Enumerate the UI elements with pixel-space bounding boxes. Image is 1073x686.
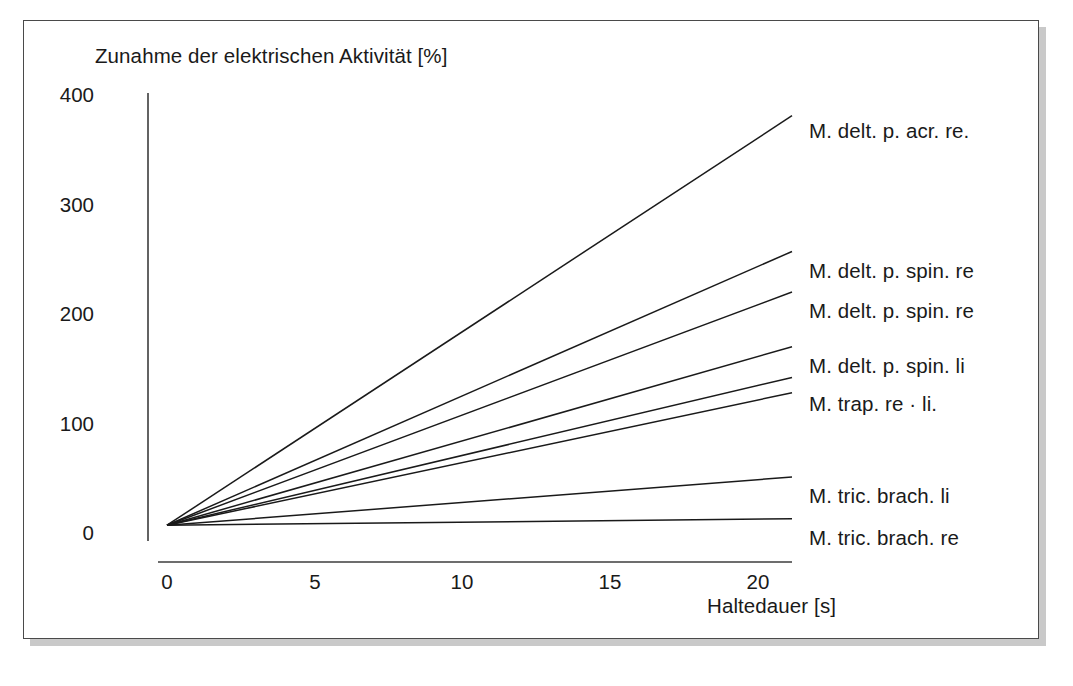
plot-area: Zunahme der elektrischen Aktivität [%] 4… (24, 21, 1040, 640)
series-label-m-trap-re-li: M. trap. re · li. (809, 392, 937, 416)
series-line-0 (167, 116, 792, 526)
series-label-m-delt-p-acr-re: M. delt. p. acr. re. (809, 119, 969, 143)
series-line-5 (167, 393, 792, 525)
series-label-m-delt-p-spin-re-2: M. delt. p. spin. re (809, 299, 974, 323)
series-label-m-delt-p-spin-li: M. delt. p. spin. li (809, 354, 965, 378)
series-line-7 (167, 519, 792, 526)
series-lines-group (167, 116, 792, 526)
screenshot-page: Zunahme der elektrischen Aktivität [%] 4… (0, 0, 1073, 686)
figure-frame: Zunahme der elektrischen Aktivität [%] 4… (23, 20, 1039, 639)
series-line-2 (167, 292, 792, 525)
series-line-3 (167, 347, 792, 525)
series-label-m-tric-brach-li: M. tric. brach. li (809, 484, 950, 508)
series-line-4 (167, 377, 792, 525)
series-label-m-delt-p-spin-re-1: M. delt. p. spin. re (809, 259, 974, 283)
series-label-m-tric-brach-re: M. tric. brach. re (809, 526, 959, 550)
